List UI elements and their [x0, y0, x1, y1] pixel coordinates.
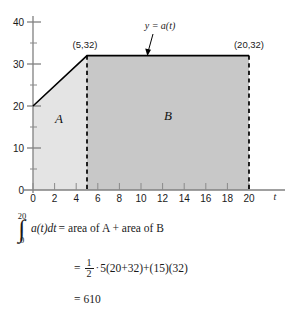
math-row-expansion: = 1 2 · 5(20+32)+(15)(32): [72, 258, 188, 279]
y-tick-label-0: 0: [18, 185, 24, 196]
x-tick-label-10: 10: [135, 193, 147, 204]
fraction-one-half: 1 2: [85, 258, 94, 279]
x-axis-label: t: [274, 191, 277, 202]
math-block: 20 ∫ 0 a(t)dt = area of A + area of B = …: [0, 206, 292, 313]
integral-with-limits: 20 ∫ 0: [14, 212, 30, 245]
multiplication-dot-icon: ·: [96, 262, 100, 273]
curve-label-arrow-shaft: [148, 34, 153, 52]
x-tick-label-16: 16: [200, 193, 212, 204]
y-tick-label-40: 40: [13, 17, 25, 28]
line3-equals-sign: =: [74, 294, 81, 306]
integral-lower-limit: 0: [20, 236, 24, 245]
integral-equals-sign: =: [59, 223, 66, 235]
integrand: a(t)dt: [31, 223, 57, 235]
x-tick-label-4: 4: [73, 193, 79, 204]
x-tick-label-18: 18: [222, 193, 234, 204]
point-label-5-32: (5,32): [73, 39, 98, 50]
integral-symbol-icon: ∫: [19, 221, 26, 237]
x-tick-label-20: 20: [243, 193, 255, 204]
x-tick-label-0: 0: [30, 193, 36, 204]
x-tick-label-12: 12: [157, 193, 169, 204]
y-tick-label-30: 30: [13, 59, 25, 70]
curve-label: y = a(t): [144, 20, 176, 32]
line3-value: 610: [84, 294, 101, 306]
region-label-b: B: [164, 108, 172, 123]
region-label-a: A: [54, 111, 63, 126]
fraction-numerator: 1: [85, 258, 94, 268]
x-tick-label-2: 2: [52, 193, 58, 204]
x-tick-label-6: 6: [95, 193, 101, 204]
fraction-denominator: 2: [85, 268, 94, 279]
integral-result-text: area of A + area of B: [68, 223, 164, 235]
line2-equals-sign: =: [74, 263, 81, 275]
math-row-integral: 20 ∫ 0 a(t)dt = area of A + area of B: [14, 212, 164, 245]
y-tick-label-10: 10: [13, 143, 25, 154]
math-row-result: = 610: [72, 294, 101, 306]
x-tick-label-8: 8: [117, 193, 123, 204]
chart-svg: 40 30 20 10 0 0 2 4 6 8 10 12 14 16 18 2…: [0, 0, 292, 208]
x-tick-label-14: 14: [179, 193, 191, 204]
y-tick-label-20: 20: [13, 101, 25, 112]
line2-expression: 5(20+32)+(15)(32): [100, 263, 188, 275]
point-label-20-32: (20,32): [234, 39, 264, 50]
